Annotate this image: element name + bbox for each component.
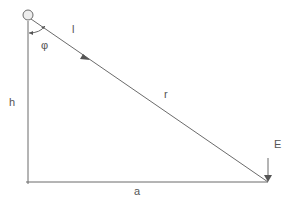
angle-arrow-icon xyxy=(29,31,33,35)
pendulum-diagram: l φ h r a E xyxy=(0,0,290,204)
base-label: a xyxy=(134,185,141,197)
hypotenuse-line xyxy=(31,19,268,182)
pivot-circle xyxy=(23,10,33,20)
field-label: E xyxy=(274,138,281,150)
distance-label: r xyxy=(164,88,168,100)
direction-arrow-icon xyxy=(80,54,90,60)
length-label: l xyxy=(72,23,74,35)
angle-label: φ xyxy=(41,39,48,51)
field-arrow-icon xyxy=(264,175,272,182)
height-label: h xyxy=(9,96,15,108)
